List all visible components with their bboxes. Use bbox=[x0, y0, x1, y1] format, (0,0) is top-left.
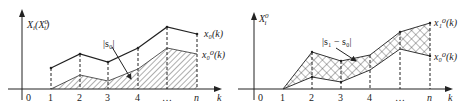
right-series-lower-label: x₀⁰(k) bbox=[433, 51, 458, 63]
svg-text:n: n bbox=[427, 92, 432, 103]
left-y-axis-label: Xi(X0i) bbox=[26, 18, 50, 32]
svg-text:n: n bbox=[194, 92, 199, 103]
left-x-ticks: 0 1 2 3 4 … n bbox=[26, 92, 199, 103]
diagram-canvas: Xi(X0i) |s₀| x₀(k) x₀⁰(k) 0 1 2 3 4 … n … bbox=[0, 0, 459, 111]
left-y-axis-arrow-icon bbox=[19, 9, 25, 17]
right-y-axis-label: X0i bbox=[258, 12, 269, 27]
left-series-lower-label: x₀⁰(k) bbox=[201, 49, 226, 61]
svg-text:1: 1 bbox=[280, 92, 285, 103]
svg-text:4: 4 bbox=[135, 92, 140, 103]
svg-text:3: 3 bbox=[105, 92, 110, 103]
svg-text:2: 2 bbox=[77, 92, 82, 103]
right-x-ticks: 0 1 2 3 4 … n bbox=[258, 92, 432, 103]
svg-text:3: 3 bbox=[338, 92, 343, 103]
left-chart: Xi(X0i) |s₀| x₀(k) x₀⁰(k) 0 1 2 3 4 … n … bbox=[8, 9, 226, 103]
left-x-axis-label: k bbox=[217, 92, 222, 103]
right-x-axis-label: k bbox=[448, 92, 453, 103]
left-annotation-label: |s₀| bbox=[103, 38, 114, 49]
svg-text:4: 4 bbox=[367, 92, 372, 103]
right-crosshatched-area bbox=[283, 23, 430, 89]
right-annotation-arrow-icon bbox=[336, 48, 356, 61]
right-series-upper-label: x₁⁰(k) bbox=[433, 17, 458, 29]
right-chart: X0i |s₁ − s₀| x₁⁰(k) x₀⁰(k) 0 1 2 3 4 … … bbox=[238, 12, 458, 103]
svg-text:0: 0 bbox=[26, 92, 31, 103]
svg-text:…: … bbox=[162, 92, 172, 103]
svg-text:…: … bbox=[395, 92, 405, 103]
svg-text:1: 1 bbox=[48, 92, 53, 103]
svg-text:2: 2 bbox=[309, 92, 314, 103]
right-annotation-label: |s₁ − s₀| bbox=[322, 36, 351, 47]
right-y-axis-arrow-icon bbox=[251, 12, 257, 20]
left-series-upper-label: x₀(k) bbox=[203, 28, 224, 40]
svg-text:0: 0 bbox=[258, 92, 263, 103]
left-annotation-arrow-icon bbox=[112, 47, 131, 79]
